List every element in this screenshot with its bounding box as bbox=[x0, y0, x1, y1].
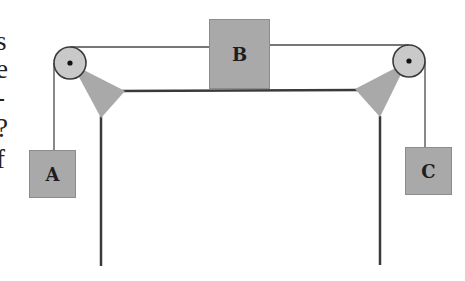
block-b: B bbox=[209, 19, 270, 89]
block-c: C bbox=[405, 147, 452, 195]
right-pulley bbox=[393, 45, 425, 77]
table-top bbox=[118, 90, 360, 91]
left-pulley bbox=[54, 47, 86, 79]
pulley-diagram: s e - ? f A B C bbox=[0, 0, 465, 281]
block-a: A bbox=[29, 150, 76, 198]
